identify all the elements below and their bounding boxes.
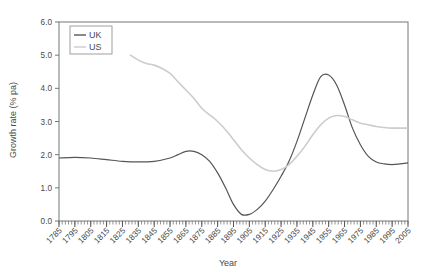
chart-canvas: 0.01.02.03.04.05.06.0 178517951805181518… [0, 0, 435, 272]
x-tick-label: 1895 [219, 226, 239, 246]
y-tick-label: 1.0 [41, 184, 53, 193]
legend-label-us: US [89, 42, 102, 52]
x-tick-label: 1965 [330, 226, 350, 246]
x-tick-label: 1835 [124, 226, 144, 246]
x-tick-label: 1885 [203, 226, 223, 246]
x-tick-label: 1985 [362, 226, 382, 246]
y-tick-label: 0.0 [41, 217, 53, 226]
x-tick-label: 1945 [298, 226, 318, 246]
x-axis-title: Year [219, 258, 237, 268]
x-tick-label: 1815 [92, 226, 112, 246]
x-tick-label: 1855 [156, 226, 176, 246]
x-tick-label: 1865 [172, 226, 192, 246]
legend-label-uk: UK [89, 30, 102, 40]
x-tick-label: 1825 [108, 226, 128, 246]
x-tick-label: 1935 [283, 226, 303, 246]
x-tick-label: 1845 [140, 226, 160, 246]
x-axis-major-ticks [59, 221, 408, 227]
x-tick-label: 1975 [346, 226, 366, 246]
y-tick-label: 6.0 [41, 18, 53, 27]
x-tick-label: 1995 [378, 226, 398, 246]
growth-rate-line-chart: 0.01.02.03.04.05.06.0 178517951805181518… [0, 0, 435, 272]
y-tick-label: 5.0 [41, 51, 53, 60]
x-tick-label: 1925 [267, 226, 287, 246]
x-tick-label: 1905 [235, 226, 255, 246]
x-tick-label: 1795 [61, 226, 81, 246]
x-tick-label: 1785 [45, 226, 65, 246]
y-tick-label: 2.0 [41, 151, 53, 160]
y-axis-tick-labels: 0.01.02.03.04.05.06.0 [41, 18, 53, 226]
x-tick-label: 1805 [76, 226, 96, 246]
x-axis-tick-labels: 1785179518051815182518351845185518651875… [45, 226, 414, 246]
legend: UKUS [70, 26, 112, 54]
x-tick-label: 1875 [187, 226, 207, 246]
y-axis-title: Growth rate (% pa) [8, 82, 18, 158]
y-tick-label: 4.0 [41, 84, 53, 93]
x-tick-label: 1955 [314, 226, 334, 246]
x-tick-label: 2005 [394, 226, 414, 246]
y-tick-label: 3.0 [41, 118, 53, 127]
x-tick-label: 1915 [251, 226, 271, 246]
y-axis-ticks [55, 22, 59, 221]
